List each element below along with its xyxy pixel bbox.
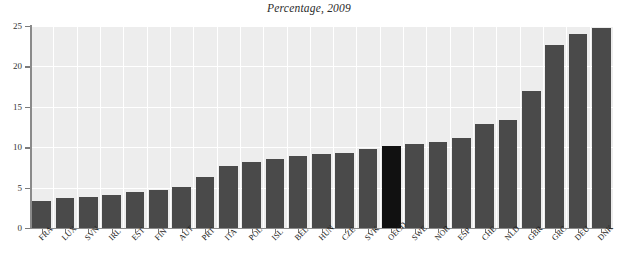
bar-grc[interactable]: [545, 45, 564, 228]
y-tick-label: 25: [0, 21, 22, 31]
gridline-vertical: [496, 26, 497, 228]
bar-gbr[interactable]: [522, 91, 541, 228]
bar-irl[interactable]: [102, 195, 121, 228]
bar-fin[interactable]: [149, 190, 168, 228]
bar-esp[interactable]: [452, 138, 471, 228]
gridline-vertical: [77, 26, 78, 228]
gridline-vertical: [333, 26, 334, 228]
gridline-vertical: [123, 26, 124, 228]
y-axis-line: [30, 25, 32, 229]
bar-pol[interactable]: [242, 162, 261, 228]
y-tick-mark: [25, 228, 30, 229]
gridline-vertical: [543, 26, 544, 228]
gridline-horizontal: [30, 66, 613, 67]
gridline-vertical: [193, 26, 194, 228]
bar-cze[interactable]: [335, 153, 354, 228]
bar-svk[interactable]: [359, 149, 378, 228]
bar-hun[interactable]: [312, 154, 331, 228]
y-tick-label: 0: [0, 223, 22, 233]
y-tick-mark: [25, 26, 30, 27]
bar-swe[interactable]: [405, 144, 424, 228]
x-label-isl: ISL: [270, 227, 285, 242]
gridline-vertical: [287, 26, 288, 228]
bar-est[interactable]: [126, 192, 145, 228]
gridline-vertical: [380, 26, 381, 228]
bar-svn[interactable]: [79, 197, 98, 229]
gridline-vertical: [310, 26, 311, 228]
gridline-vertical: [566, 26, 567, 228]
gridline-vertical: [403, 26, 404, 228]
gridline-vertical: [147, 26, 148, 228]
bar-deu[interactable]: [569, 34, 588, 228]
gridline-vertical: [100, 26, 101, 228]
y-tick-mark: [25, 147, 30, 148]
bar-nor[interactable]: [429, 142, 448, 228]
chart-figure: Percentage, 2009 0510152025 FRALUXSVNIRL…: [0, 0, 618, 259]
bar-isl[interactable]: [266, 159, 285, 228]
gridline-vertical: [240, 26, 241, 228]
chart-title: Percentage, 2009: [0, 2, 618, 14]
bar-nld[interactable]: [499, 120, 518, 228]
y-tick-label: 15: [0, 102, 22, 112]
gridline-vertical: [356, 26, 357, 228]
gridline-vertical: [170, 26, 171, 228]
gridline-vertical: [426, 26, 427, 228]
gridline-vertical: [520, 26, 521, 228]
plot-area: [30, 26, 613, 228]
bar-dnk[interactable]: [592, 28, 611, 228]
gridline-vertical: [263, 26, 264, 228]
gridline-horizontal: [30, 26, 613, 27]
bar-ita[interactable]: [219, 166, 238, 228]
gridline-vertical: [450, 26, 451, 228]
y-tick-label: 20: [0, 61, 22, 71]
bar-bel[interactable]: [289, 156, 308, 228]
gridline-vertical: [217, 26, 218, 228]
gridline-vertical: [473, 26, 474, 228]
y-tick-mark: [25, 107, 30, 108]
bar-che[interactable]: [475, 124, 494, 228]
y-tick-mark: [25, 188, 30, 189]
y-tick-label: 5: [0, 183, 22, 193]
gridline-vertical: [53, 26, 54, 228]
bar-oecd[interactable]: [382, 146, 401, 228]
bar-prt[interactable]: [196, 177, 215, 228]
y-tick-label: 10: [0, 142, 22, 152]
gridline-vertical: [590, 26, 591, 228]
bar-aut[interactable]: [172, 187, 191, 228]
y-tick-mark: [25, 66, 30, 67]
